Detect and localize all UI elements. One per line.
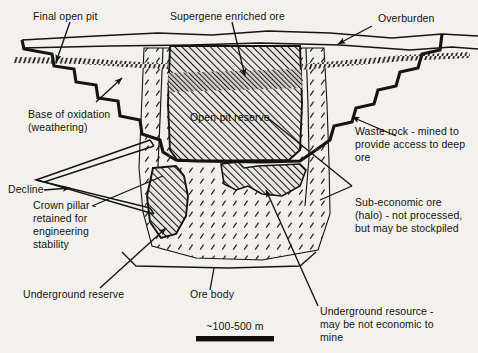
label-crown-pillar-2: retained for [33, 212, 87, 225]
supergene-enriched-ore-band [168, 69, 302, 92]
label-final-open-pit: Final open pit [33, 10, 97, 23]
label-sub-economic-2: (halo) - not processed, [355, 209, 462, 222]
label-crown-pillar-1: Crown pillar - [33, 199, 96, 212]
label-scale: ~100-500 m [186, 320, 284, 333]
mine-cross-section-figure: Final open pit Supergene enriched ore Ov… [0, 0, 478, 353]
label-underground-resource-1: Underground resource - [320, 305, 434, 318]
label-waste-rock-2: provide access to deep [355, 138, 465, 151]
label-crown-pillar-3: engineering [33, 225, 89, 238]
label-open-pit-reserve: Open-pit reserve [190, 111, 270, 124]
label-waste-rock-1: Waste rock - mined to [355, 125, 459, 138]
label-overburden: Overburden [378, 12, 434, 25]
label-supergene-enriched-ore: Supergene enriched ore [170, 10, 285, 23]
open-pit-reserve-region [168, 46, 302, 161]
label-ore-body: Ore body [190, 288, 234, 301]
label-underground-reserve: Underground reserve [23, 288, 124, 301]
label-underground-resource-2: may be not economic to [320, 318, 434, 331]
label-crown-pillar-4: stability [33, 238, 69, 251]
scale-bar [196, 336, 274, 341]
label-sub-economic-1: Sub-economic ore [355, 196, 442, 209]
label-waste-rock-3: ore [355, 151, 370, 164]
label-decline: Decline [8, 183, 44, 196]
label-sub-economic-3: but may be stockpiled [355, 222, 459, 235]
label-underground-resource-3: mine [320, 331, 343, 344]
label-base-of-oxidation-2: (weathering) [28, 121, 88, 134]
label-base-of-oxidation-1: Base of oxidation [28, 108, 110, 121]
